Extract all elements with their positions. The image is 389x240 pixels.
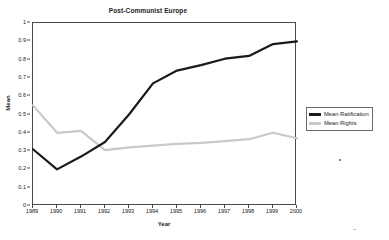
x-tick-label: 1995 — [170, 208, 182, 214]
y-tick-label: 0.2 — [18, 165, 26, 171]
chart-legend: Mean RatificationMean Rights — [306, 107, 373, 131]
x-tick-mark — [56, 205, 57, 208]
artifact-speck-1 — [339, 159, 341, 161]
y-tick-label: 0.1 — [18, 184, 26, 190]
x-tick-mark — [224, 205, 225, 208]
legend-label: Mean Ratification — [324, 110, 369, 119]
y-tick-mark — [27, 40, 30, 41]
series-layer — [33, 23, 297, 206]
x-tick-label: 1992 — [98, 208, 110, 214]
x-tick-label: 1990 — [50, 208, 62, 214]
artifact-speck-2 — [353, 229, 356, 230]
x-tick-mark — [176, 205, 177, 208]
legend-swatch — [309, 122, 321, 124]
x-tick-mark — [272, 205, 273, 208]
x-tick-mark — [152, 205, 153, 208]
x-tick-label: 1998 — [242, 208, 254, 214]
y-tick-mark — [27, 205, 30, 206]
x-tick-label: 1994 — [146, 208, 158, 214]
y-tick-mark — [27, 22, 30, 23]
x-tick-label: 1999 — [266, 208, 278, 214]
chart-container: Post-Communist Europe Mean 00.10.20.30.4… — [0, 0, 389, 240]
y-tick-label: 1 — [23, 19, 26, 25]
x-tick-label: 1991 — [74, 208, 86, 214]
y-tick-label: 0.9 — [18, 37, 26, 43]
legend-swatch — [309, 113, 321, 115]
x-tick-label: 1996 — [194, 208, 206, 214]
chart-title: Post-Communist Europe — [0, 7, 296, 14]
legend-item: Mean Rights — [309, 119, 369, 128]
x-tick-mark — [128, 205, 129, 208]
x-tick-label: 2000 — [290, 208, 302, 214]
x-tick-label: 1997 — [218, 208, 230, 214]
y-tick-label: 0.3 — [18, 147, 26, 153]
x-tick-mark — [104, 205, 105, 208]
y-tick-label: 0.5 — [18, 111, 26, 117]
x-tick-label: 1993 — [122, 208, 134, 214]
y-axis-tick-labels: 00.10.20.30.40.50.60.70.80.91 — [0, 22, 30, 205]
x-tick-mark — [200, 205, 201, 208]
plot-area — [32, 22, 296, 205]
y-tick-label: 0.4 — [18, 129, 26, 135]
x-tick-mark — [296, 205, 297, 208]
y-tick-mark — [27, 76, 30, 77]
series-line — [33, 41, 297, 169]
x-axis-title: Year — [32, 221, 296, 227]
y-tick-mark — [27, 150, 30, 151]
x-axis-tick-labels: 1989199019911992199319941995199619971998… — [32, 208, 296, 222]
y-tick-label: 0.6 — [18, 92, 26, 98]
y-tick-label: 0.7 — [18, 74, 26, 80]
x-tick-mark — [32, 205, 33, 208]
y-tick-mark — [27, 113, 30, 114]
x-tick-mark — [248, 205, 249, 208]
y-tick-mark — [27, 95, 30, 96]
y-tick-mark — [27, 168, 30, 169]
y-tick-mark — [27, 58, 30, 59]
y-tick-mark — [27, 131, 30, 132]
y-tick-mark — [27, 186, 30, 187]
y-tick-label: 0.8 — [18, 56, 26, 62]
x-tick-label: 1989 — [26, 208, 38, 214]
legend-label: Mean Rights — [324, 119, 357, 128]
series-line — [33, 105, 297, 150]
legend-item: Mean Ratification — [309, 110, 369, 119]
x-tick-mark — [80, 205, 81, 208]
